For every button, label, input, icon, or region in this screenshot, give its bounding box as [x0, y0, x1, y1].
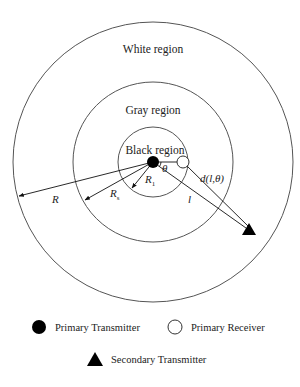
black-region-label: Black region: [125, 144, 184, 157]
legend-secondary-transmitter-icon: [87, 352, 103, 366]
legend-primary-transmitter-icon: [32, 320, 46, 334]
primary-receiver-marker: [177, 156, 189, 168]
label-theta: θ: [162, 162, 168, 174]
legend-primary-receiver-label: Primary Receiver: [191, 322, 265, 333]
theta-angle-arc: [160, 162, 162, 167]
label-Rs: Rs: [109, 187, 120, 202]
primary-transmitter-marker: [147, 156, 159, 168]
secondary-transmitter-marker: [242, 223, 256, 235]
gray-region-label: Gray region: [125, 104, 180, 117]
label-R1: R1: [144, 173, 156, 188]
legend: Primary Transmitter Primary Receiver Sec…: [32, 320, 265, 366]
label-R: R: [51, 193, 59, 205]
label-l: l: [188, 193, 191, 205]
label-d-l-theta: d(l,θ): [200, 172, 224, 185]
legend-secondary-transmitter-label: Secondary Transmitter: [111, 354, 207, 365]
white-region-label: White region: [123, 43, 184, 56]
legend-primary-transmitter-label: Primary Transmitter: [55, 322, 140, 333]
legend-primary-receiver-icon: [168, 320, 182, 334]
diagram-canvas: White region Gray region Black region R …: [0, 0, 300, 387]
